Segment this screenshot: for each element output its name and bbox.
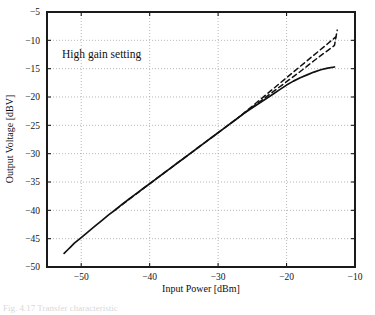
y-tick-label: −40 (25, 206, 40, 216)
y-tick-label: −50 (25, 262, 40, 272)
series-ideal-linear-upper (235, 37, 336, 120)
series-measured (64, 67, 334, 253)
y-tick-label: −30 (25, 149, 40, 159)
x-tick-label: −30 (211, 272, 226, 282)
x-axis-tick-labels: −50−40−30−20−10 (74, 272, 363, 282)
y-tick-label: −20 (25, 92, 40, 102)
y-axis-tick-labels: −50−45−40−35−30−25−20−15−10−5 (25, 7, 40, 272)
x-tick-label: −40 (142, 272, 157, 282)
y-tick-label: −15 (25, 64, 40, 74)
y-tick-label: −35 (25, 177, 40, 187)
series-ideal-linear (115, 30, 337, 210)
x-tick-label: −20 (279, 272, 294, 282)
y-tick-label: −45 (25, 234, 40, 244)
y-axis-title: Output Voltage [dBV] (4, 95, 15, 184)
x-tick-label: −10 (348, 272, 363, 282)
x-axis-title: Input Power [dBm] (162, 283, 240, 294)
y-tick-label: −5 (30, 7, 40, 17)
x-tick-label: −50 (74, 272, 89, 282)
y-tick-label: −25 (25, 121, 40, 131)
plot-annotation: High gain setting (62, 48, 141, 61)
figure-caption: Fig. 4.17 Transfer characteristic (3, 303, 153, 315)
y-tick-label: −10 (25, 36, 40, 46)
data-series-group (64, 30, 337, 253)
